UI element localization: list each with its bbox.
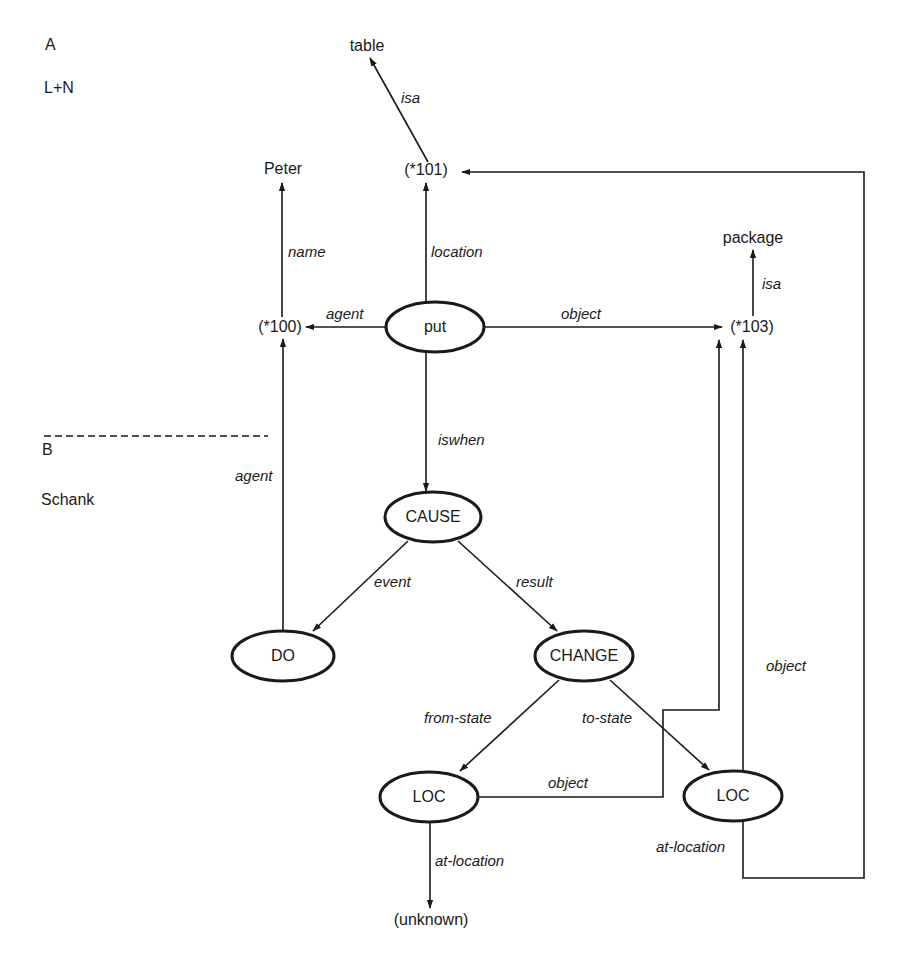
label-object-loc-from: object [548,774,588,791]
node-do: DO [271,647,295,665]
label-event: event [374,573,411,590]
panel-a-name: L+N [44,79,74,97]
label-at-location-from: at-location [435,852,504,869]
node-peter: Peter [264,160,302,178]
node-unknown: (unknown) [394,911,469,929]
node-103: (*103) [730,318,774,336]
label-object-top: object [561,305,601,322]
label-at-location-to: at-location [656,838,725,855]
node-change: CHANGE [550,647,618,665]
node-package: package [723,229,784,247]
node-cause: CAUSE [405,508,460,526]
node-put: put [424,318,446,336]
label-object-loc-to: object [766,657,806,674]
label-isa-package: isa [762,275,781,292]
edge-isa-table [370,58,428,162]
label-name: name [288,243,326,260]
node-loc-to: LOC [717,787,750,805]
label-isa-table: isa [401,89,420,106]
panel-a-letter: A [45,36,56,54]
node-loc-from: LOC [413,788,446,806]
diagram-canvas [0,0,901,957]
label-agent-top: agent [326,305,364,322]
label-agent-do: agent [235,467,273,484]
panel-b-name: Schank [41,491,94,509]
node-100: (*100) [258,318,302,336]
label-from-state: from-state [424,709,492,726]
label-iswhen: iswhen [438,431,485,448]
edge-object-loc-from [478,340,719,797]
label-location: location [431,243,483,260]
node-101: (*101) [404,161,448,179]
node-table: table [350,37,385,55]
label-result: result [516,573,553,590]
label-to-state: to-state [582,709,632,726]
panel-b-letter: B [42,441,53,459]
